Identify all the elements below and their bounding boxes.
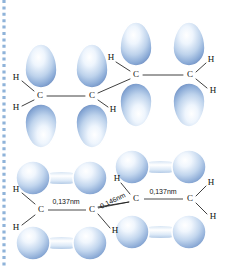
atom-label-c: C (89, 204, 95, 214)
lobe-c2-up (76, 44, 108, 88)
atom-label-h: H (108, 52, 115, 62)
bond-length-label-c3-c4: 0,137nm (149, 188, 176, 195)
lobe-c1-up (25, 44, 57, 88)
atom-label-c: C (133, 193, 139, 203)
atom-label-h: H (13, 184, 20, 194)
atom-label-c: C (89, 90, 95, 100)
atom-label-c: C (187, 69, 193, 79)
atom-label-h: H (13, 102, 20, 112)
atom-label-h: H (210, 85, 217, 95)
atom-label-h: H (114, 173, 121, 183)
lobe-c4-up (173, 22, 205, 66)
atom-label-h: H (208, 54, 215, 64)
atom-label-h: H (13, 222, 20, 232)
atom-label-c: C (133, 69, 139, 79)
lobe-c3-up (120, 22, 152, 66)
atom-label-c: C (38, 204, 44, 214)
atom-label-h: H (208, 177, 215, 187)
orbital-diagram-svg: H H C C H H C C H H (0, 0, 226, 268)
figure-canvas: H H C C H H C C H H (0, 0, 226, 268)
lobe-c3-down (120, 83, 152, 127)
atom-label-h: H (13, 72, 20, 82)
lobe-c2-down (76, 104, 108, 148)
atom-label-c: C (37, 90, 43, 100)
lobe-c4-down (173, 83, 205, 127)
lobe-c1-down (25, 104, 57, 148)
bond-length-label-c1-c2: 0,137nm (52, 198, 79, 205)
atom-label-h: H (112, 225, 119, 235)
atom-label-c: C (187, 193, 193, 203)
atom-label-h: H (210, 211, 217, 221)
atom-label-h: H (110, 104, 117, 114)
